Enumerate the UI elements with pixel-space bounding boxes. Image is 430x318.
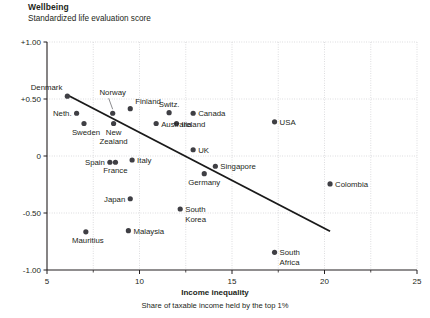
data-point bbox=[113, 160, 118, 165]
point-label: Finland bbox=[135, 97, 161, 106]
point-label: USA bbox=[280, 118, 297, 127]
data-point bbox=[272, 119, 277, 124]
data-point bbox=[83, 229, 88, 234]
point-label: Germany bbox=[188, 178, 220, 187]
point-label: Japan bbox=[104, 195, 125, 204]
data-point bbox=[191, 147, 196, 152]
data-point bbox=[272, 250, 277, 255]
y-tick-label: 0 bbox=[37, 152, 42, 161]
point-label: SouthKorea bbox=[185, 205, 206, 224]
data-point bbox=[130, 157, 135, 162]
point-label: Malaysia bbox=[133, 227, 164, 236]
y-tick-label: +0.50 bbox=[21, 95, 42, 104]
chart-figure: Wellbeing Standardized life evaluation s… bbox=[0, 0, 430, 318]
x-axis-subtitle: Share of taxable income held by the top … bbox=[0, 301, 430, 310]
x-tick-label: 5 bbox=[45, 277, 50, 286]
data-point bbox=[81, 121, 86, 126]
point-label: SouthAfrica bbox=[280, 248, 301, 267]
point-label: NewZealand bbox=[100, 128, 128, 147]
data-point bbox=[327, 181, 332, 186]
point-label: Spain bbox=[85, 158, 105, 167]
data-point bbox=[128, 106, 133, 111]
point-label: Mauritius bbox=[72, 236, 104, 245]
data-point bbox=[167, 110, 172, 115]
point-label: UK bbox=[198, 146, 210, 155]
data-point bbox=[74, 111, 79, 116]
data-point bbox=[213, 164, 218, 169]
data-point bbox=[107, 160, 112, 165]
point-label: Switz. bbox=[159, 100, 180, 109]
y-tick-label: -1.00 bbox=[23, 266, 42, 275]
point-label: Neth. bbox=[53, 109, 72, 118]
label-leader-line bbox=[109, 98, 113, 109]
y-tick-label: -0.50 bbox=[23, 209, 42, 218]
point-label: Norway bbox=[99, 88, 126, 97]
point-label: Colombia bbox=[335, 180, 369, 189]
data-point bbox=[178, 206, 183, 211]
tick-labels: +1.00+0.500-0.50-1.00510152025DenmarkNet… bbox=[21, 38, 422, 286]
data-point bbox=[154, 121, 159, 126]
data-point bbox=[111, 121, 116, 126]
x-tick-label: 10 bbox=[135, 277, 144, 286]
point-label: France bbox=[103, 166, 127, 175]
data-point bbox=[110, 111, 115, 116]
data-point bbox=[65, 94, 70, 99]
data-point bbox=[128, 196, 133, 201]
data-point bbox=[126, 228, 131, 233]
y-tick-label: +1.00 bbox=[21, 38, 42, 47]
scatter-plot: +1.00+0.500-0.50-1.00510152025DenmarkNet… bbox=[0, 0, 430, 318]
x-axis-title: Income inequality bbox=[0, 288, 430, 297]
data-point bbox=[191, 111, 196, 116]
x-tick-label: 25 bbox=[413, 277, 422, 286]
x-tick-label: 20 bbox=[320, 277, 329, 286]
point-label: Canada bbox=[198, 109, 226, 118]
point-label: Singapore bbox=[220, 162, 256, 171]
point-label: Denmark bbox=[31, 83, 63, 92]
data-point bbox=[202, 171, 207, 176]
point-label: Ireland bbox=[182, 120, 206, 129]
point-label: Italy bbox=[137, 156, 151, 165]
point-label: Sweden bbox=[72, 128, 100, 137]
x-tick-label: 15 bbox=[228, 277, 237, 286]
